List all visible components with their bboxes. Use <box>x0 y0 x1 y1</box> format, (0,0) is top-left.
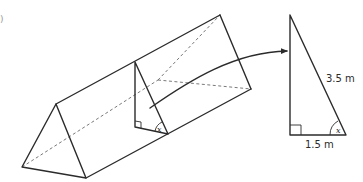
cross-section-triangle <box>135 62 168 134</box>
diagram-canvas: ) x x 3.5 m 1.5 m <box>0 0 363 182</box>
right-triangle: x 3.5 m 1.5 m <box>290 15 355 150</box>
question-label-fragment: ) <box>0 14 4 24</box>
prism-hidden-bottom-edge <box>22 80 158 167</box>
triangular-prism: x <box>22 15 251 178</box>
prism-hidden-back-base-edge <box>158 80 251 89</box>
prism-front-face <box>22 104 86 178</box>
hypotenuse-label: 3.5 m <box>326 73 355 84</box>
base-label: 1.5 m <box>305 139 334 150</box>
right-angle-marker-icon <box>290 125 301 135</box>
curved-arrow-icon <box>150 51 287 108</box>
prism-top-ridge <box>56 15 220 104</box>
cross-section-angle-label: x <box>157 125 162 134</box>
prism-back-right-edge <box>220 15 251 89</box>
angle-label: x <box>336 126 341 135</box>
